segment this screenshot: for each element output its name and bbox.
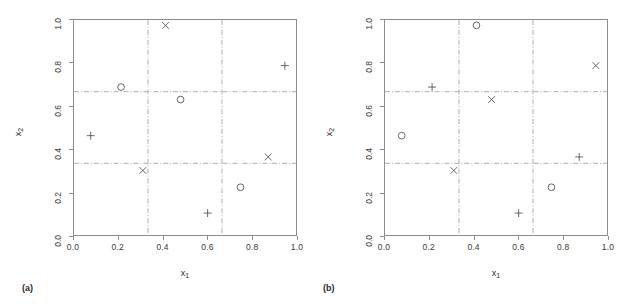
- y-tick-label-text: 1.0: [53, 18, 63, 30]
- y-tick: [380, 193, 384, 194]
- y-tick: [380, 236, 384, 237]
- x-tick-label: 0.8: [543, 242, 583, 252]
- data-points-a: [74, 20, 296, 235]
- y-tick-label-text: 0.0: [53, 235, 63, 247]
- x-tick: [73, 236, 74, 240]
- y-tick: [69, 106, 73, 107]
- x-tick: [163, 236, 164, 240]
- y-tick-label-text: 0.6: [364, 105, 374, 117]
- y-tick-label: 0.6: [311, 100, 377, 112]
- y-axis-label-sub-a: 2: [17, 128, 24, 132]
- x-tick: [518, 236, 519, 240]
- y-tick-label: 1.0: [311, 13, 377, 25]
- x-tick: [474, 236, 475, 240]
- y-tick-label: 0.2: [0, 187, 66, 199]
- y-tick-label-text: 1.0: [364, 18, 374, 30]
- x-tick-label: 0.2: [409, 242, 449, 252]
- y-tick-label-text: 0.6: [53, 105, 63, 117]
- y-axis-label-b: x2: [324, 128, 334, 136]
- plot-frame-b: [384, 19, 608, 236]
- x-tick: [563, 236, 564, 240]
- marker-circle: [473, 22, 480, 29]
- y-tick-label-text: 0.8: [364, 61, 374, 73]
- marker-cross: [488, 96, 495, 103]
- marker-plus: [87, 132, 95, 140]
- marker-cross: [593, 62, 600, 69]
- y-tick-label: 0.8: [311, 56, 377, 68]
- plot-frame-a: [73, 19, 297, 236]
- y-tick: [69, 193, 73, 194]
- x-tick: [297, 236, 298, 240]
- x-tick-label: 0.2: [98, 242, 138, 252]
- y-tick-label: 0.4: [0, 143, 66, 155]
- marker-circle: [118, 84, 125, 91]
- y-tick-label-text: 0.2: [364, 192, 374, 204]
- panel-b: 0.00.20.40.60.81.00.00.20.40.60.81.0 x1 …: [311, 0, 622, 308]
- x-tick: [118, 236, 119, 240]
- marker-plus: [281, 62, 289, 70]
- y-tick-label: 0.0: [0, 230, 66, 242]
- y-tick-label-text: 0.0: [364, 235, 374, 247]
- marker-circle: [237, 184, 244, 191]
- panel-caption-a: (a): [22, 283, 33, 293]
- x-tick-label: 1.0: [588, 242, 623, 252]
- x-axis-label-a: x1: [73, 268, 297, 278]
- x-tick: [608, 236, 609, 240]
- x-tick-label: 0.8: [232, 242, 272, 252]
- x-tick: [384, 236, 385, 240]
- marker-cross: [162, 22, 169, 29]
- x-tick-label: 0.6: [498, 242, 538, 252]
- x-axis-label-sub-b: 1: [496, 272, 500, 279]
- y-axis-label-sub-b: 2: [328, 128, 335, 132]
- y-axis-label-text-a: x: [13, 132, 23, 137]
- y-tick-label: 0.4: [311, 143, 377, 155]
- x-tick-label: 0.4: [454, 242, 494, 252]
- y-tick-label-text: 0.4: [53, 148, 63, 160]
- marker-circle: [398, 132, 405, 139]
- marker-plus: [515, 209, 523, 217]
- y-tick: [380, 149, 384, 150]
- marker-cross: [139, 167, 146, 174]
- x-tick-label: 0.6: [187, 242, 227, 252]
- panel-a: 0.00.20.40.60.81.00.00.20.40.60.81.0 x1 …: [0, 0, 311, 308]
- x-tick: [429, 236, 430, 240]
- y-tick: [380, 106, 384, 107]
- y-tick-label-text: 0.8: [53, 61, 63, 73]
- y-tick-label: 1.0: [0, 13, 66, 25]
- x-axis-label-sub-a: 1: [185, 272, 189, 279]
- marker-cross: [265, 154, 272, 161]
- x-tick: [207, 236, 208, 240]
- marker-plus: [428, 83, 436, 91]
- y-tick-label: 0.0: [311, 230, 377, 242]
- x-axis-label-b: x1: [384, 268, 608, 278]
- y-tick-label: 0.6: [0, 100, 66, 112]
- y-tick-label: 0.2: [311, 187, 377, 199]
- y-axis-label-a: x2: [13, 128, 23, 136]
- y-axis-label-text-b: x: [324, 132, 334, 137]
- x-tick-label: 0.4: [143, 242, 183, 252]
- y-tick-label-text: 0.2: [53, 192, 63, 204]
- marker-plus: [204, 209, 212, 217]
- y-tick: [69, 19, 73, 20]
- y-tick: [69, 236, 73, 237]
- panel-caption-b: (b): [323, 283, 335, 293]
- figure-container: 0.00.20.40.60.81.00.00.20.40.60.81.0 x1 …: [0, 0, 623, 308]
- marker-cross: [450, 167, 457, 174]
- y-tick-label: 0.8: [0, 56, 66, 68]
- plot-area-a: [74, 20, 296, 235]
- marker-plus: [575, 153, 583, 161]
- y-tick: [380, 62, 384, 63]
- y-tick: [69, 149, 73, 150]
- y-tick-label-text: 0.4: [364, 148, 374, 160]
- data-points-b: [385, 20, 607, 235]
- y-tick: [69, 62, 73, 63]
- marker-circle: [177, 96, 184, 103]
- plot-area-b: [385, 20, 607, 235]
- y-tick: [380, 19, 384, 20]
- marker-circle: [548, 184, 555, 191]
- x-tick: [252, 236, 253, 240]
